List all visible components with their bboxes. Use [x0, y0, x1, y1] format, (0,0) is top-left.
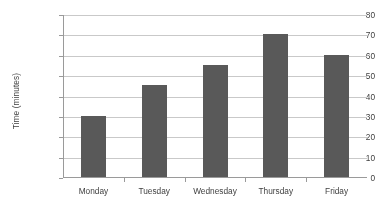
bar-chart: Time (minutes) 01020304050607080 MondayT… [0, 0, 382, 217]
x-axis-label-friday: Friday [325, 186, 348, 196]
x-axis-line [63, 177, 367, 178]
x-axis-label-monday: Monday [79, 186, 109, 196]
x-axis-tick [124, 178, 125, 182]
x-axis-label-wednesday: Wednesday [193, 186, 237, 196]
x-axis-tick [245, 178, 246, 182]
y-axis-line [63, 15, 64, 178]
x-axis-label-thursday: Thursday [259, 186, 294, 196]
bar-friday [324, 55, 349, 177]
x-axis-tick [306, 178, 307, 182]
bar-thursday [263, 34, 288, 177]
y-axis-title-label: Time (minutes) [11, 73, 21, 129]
x-axis-label-tuesday: Tuesday [138, 186, 170, 196]
gridline [63, 35, 367, 36]
bar-tuesday [142, 85, 167, 177]
gridline [63, 56, 367, 57]
y-axis-tick [59, 178, 63, 179]
y-axis-title: Time (minutes) [9, 56, 23, 146]
plot-area [63, 15, 367, 178]
x-axis-tick [185, 178, 186, 182]
bar-monday [81, 116, 106, 177]
gridline [63, 15, 367, 16]
bar-wednesday [203, 65, 228, 177]
